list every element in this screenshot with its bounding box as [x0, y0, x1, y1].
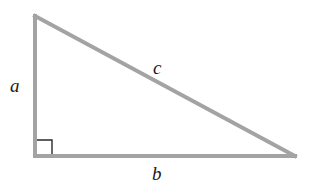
label-side-c: c: [153, 58, 161, 77]
right-angle-marker: [37, 140, 52, 154]
label-side-b: b: [152, 164, 162, 183]
label-side-a: a: [10, 76, 20, 95]
side-c-hypotenuse: [35, 16, 295, 156]
